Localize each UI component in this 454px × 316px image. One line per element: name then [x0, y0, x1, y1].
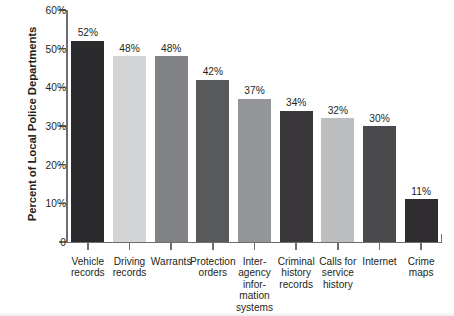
bar-value-label: 48% — [119, 43, 139, 54]
bar-value-label: 32% — [328, 105, 348, 116]
x-axis-tick — [170, 243, 172, 250]
x-axis-label-line: mation — [231, 290, 279, 301]
y-axis-tick-label: 50% — [14, 43, 66, 54]
x-axis-label-line: Crime — [397, 256, 445, 267]
x-axis-category-label: Criminalhistoryrecords — [272, 256, 320, 290]
y-axis-tick-label: 30% — [14, 121, 66, 132]
bar — [321, 118, 354, 242]
page-edge-artifact — [0, 312, 454, 316]
bar-group: 32% — [321, 10, 354, 242]
x-axis-label-line: maps — [397, 267, 445, 278]
x-axis-label-line: agency — [231, 267, 279, 278]
bar-group: 52% — [71, 10, 104, 242]
x-axis-label-line: history — [272, 267, 320, 278]
x-axis-label-line: Internet — [356, 256, 404, 267]
x-axis-label-line: Driving — [106, 256, 154, 267]
x-axis-tick — [212, 243, 214, 250]
bar-value-label: 52% — [78, 27, 98, 38]
bar — [238, 99, 271, 242]
x-axis-label-line: history — [314, 279, 362, 290]
y-axis-tick-label: 60% — [14, 5, 66, 16]
y-axis-tick-label: 20% — [14, 159, 66, 170]
x-axis-tick — [129, 243, 131, 250]
x-axis-category-label: Protectionorders — [189, 256, 237, 279]
x-axis-label-line: infor- — [231, 279, 279, 290]
x-axis-label-line: records — [64, 267, 112, 278]
bar — [280, 111, 313, 242]
x-axis-label-line: records — [106, 267, 154, 278]
x-axis-category-label: Vehiclerecords — [64, 256, 112, 279]
x-axis-label-line: Inter- — [231, 256, 279, 267]
x-axis-tick — [379, 243, 381, 250]
bar-chart: Percent of Local Police Departments 010%… — [0, 0, 454, 316]
x-axis-tick — [420, 243, 422, 250]
x-axis-tick — [87, 243, 89, 250]
bar — [363, 126, 396, 242]
bar — [405, 199, 438, 242]
x-axis-label-line: orders — [189, 267, 237, 278]
y-axis-tick-label: 0 — [14, 237, 66, 248]
x-axis-tick — [254, 243, 256, 250]
plot-area: 52%48%48%42%37%34%32%30%11% — [67, 10, 442, 242]
y-axis-tick-label: 40% — [14, 82, 66, 93]
x-axis-label-line: records — [272, 279, 320, 290]
x-axis-label-line: Protection — [189, 256, 237, 267]
x-axis-label-line: Vehicle — [64, 256, 112, 267]
bar-group: 42% — [196, 10, 229, 242]
x-axis-category-label: Inter-agencyinfor-mationsystems — [231, 256, 279, 313]
x-axis-label-line: Warrants — [147, 256, 195, 267]
x-axis-label-line: Calls for — [314, 256, 362, 267]
bar — [155, 56, 188, 242]
x-axis-category-label: Drivingrecords — [106, 256, 154, 279]
bar — [71, 41, 104, 242]
x-axis-category-label: Crimemaps — [397, 256, 445, 279]
bar-value-label: 37% — [244, 85, 264, 96]
bar-group: 34% — [280, 10, 313, 242]
bar-group: 11% — [405, 10, 438, 242]
x-axis-category-label: Internet — [356, 256, 404, 267]
bar-group: 48% — [113, 10, 146, 242]
bar — [113, 56, 146, 242]
x-axis-label-line: service — [314, 267, 362, 278]
x-axis-label-line: Criminal — [272, 256, 320, 267]
bar-value-label: 42% — [203, 66, 223, 77]
bar-group: 37% — [238, 10, 271, 242]
bar-value-label: 34% — [286, 97, 306, 108]
bar-value-label: 48% — [161, 43, 181, 54]
bar-value-label: 11% — [411, 186, 431, 197]
bar-group: 30% — [363, 10, 396, 242]
y-axis-tick-label: 10% — [14, 198, 66, 209]
bar-value-label: 30% — [369, 113, 389, 124]
x-axis-category-label: Warrants — [147, 256, 195, 267]
x-axis-tick — [337, 243, 339, 250]
bar — [196, 80, 229, 242]
x-axis-category-label: Calls forservicehistory — [314, 256, 362, 290]
x-axis-tick — [295, 243, 297, 250]
bar-group: 48% — [155, 10, 188, 242]
